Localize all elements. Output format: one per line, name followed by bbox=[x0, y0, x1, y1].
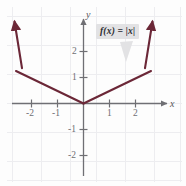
y-tick-label-neg1: -1 bbox=[68, 125, 76, 135]
y-axis-label: y bbox=[86, 10, 90, 20]
y-tick-label-2: 2 bbox=[72, 47, 77, 57]
function-label-callout: f(x) = |x| bbox=[96, 24, 139, 39]
x-tick-label-neg1: -1 bbox=[52, 109, 60, 119]
x-axis-label: x bbox=[170, 99, 174, 109]
y-tick-label-neg2: -2 bbox=[68, 151, 76, 161]
x-tick-label-1: 1 bbox=[107, 109, 112, 119]
figure-background bbox=[0, 0, 186, 186]
y-tick-label-1: 1 bbox=[72, 73, 77, 83]
x-tick-label-2: 2 bbox=[133, 109, 138, 119]
graph-canvas bbox=[0, 0, 186, 186]
absolute-value-graph-figure: -2 -1 1 2 2 1 -1 -2 x y f(x) = |x| bbox=[0, 0, 186, 186]
x-tick-label-neg2: -2 bbox=[26, 109, 34, 119]
